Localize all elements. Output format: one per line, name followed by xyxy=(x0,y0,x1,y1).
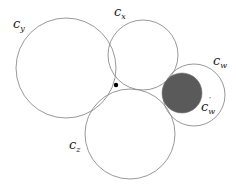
circle-c-z xyxy=(85,89,175,179)
label-c-w: cw xyxy=(213,54,227,70)
circle-c-w-prime-filled xyxy=(162,73,202,113)
label-c-x-sub: x xyxy=(121,12,126,21)
label-c-w-sub: w xyxy=(220,61,227,70)
label-c-y-sub: y xyxy=(20,24,25,33)
tangent-circles-diagram: cy cx cw c′w cz xyxy=(0,0,236,188)
label-c-y: cy xyxy=(13,17,25,33)
circle-c-y xyxy=(16,18,116,118)
label-c-w-prime-base: c xyxy=(201,99,208,114)
label-c-w-prime-sub: w xyxy=(208,108,215,116)
label-c-w-prime: c′w xyxy=(201,100,216,113)
label-c-z: cz xyxy=(69,138,81,154)
diagram-canvas xyxy=(0,0,236,188)
tangency-point-dot xyxy=(114,83,118,87)
label-c-z-sub: z xyxy=(76,145,80,154)
label-c-x: cx xyxy=(114,5,126,21)
label-c-w-prime-sup: ′ xyxy=(209,96,211,104)
